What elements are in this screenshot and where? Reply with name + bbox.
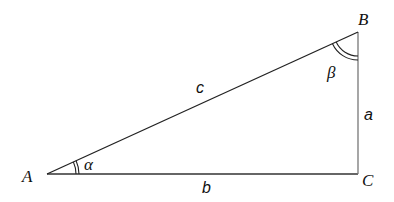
side-label-c: c — [196, 79, 204, 96]
angle-label-beta: β — [326, 63, 336, 82]
vertex-label-a: A — [21, 167, 33, 186]
side-c — [47, 32, 358, 174]
vertex-label-c: C — [362, 171, 374, 190]
vertex-label-b: B — [358, 10, 369, 29]
right-triangle-diagram: A B C a b c α β — [0, 0, 394, 202]
angle-beta-arc — [333, 42, 359, 60]
angle-alpha-arc — [73, 161, 79, 174]
side-label-b: b — [202, 179, 211, 196]
angle-label-alpha: α — [84, 155, 94, 174]
side-label-a: a — [364, 106, 373, 123]
